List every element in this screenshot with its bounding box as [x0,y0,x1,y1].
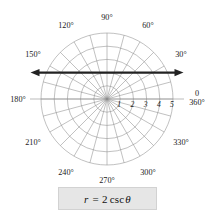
angle-label-300: 300° [140,168,156,177]
polar-plot-figure: 1 2 3 4 5 90° 120° 60° 150° 30° 180° 0 3… [0,0,213,217]
spoke-195 [43,99,107,116]
angle-label-270: 270° [99,176,115,185]
angle-label-330: 330° [173,138,189,147]
curve-arrowhead-left [31,69,40,76]
angle-label-150: 150° [25,50,41,59]
spoke-150 [50,66,107,99]
caption-equals: = [90,193,102,205]
radial-tick-1: 1 [117,100,121,109]
spoke-300 [107,99,140,156]
spoke-75 [107,35,124,99]
caption-variable: θ [124,193,131,205]
caption-function: csc [108,193,125,205]
spoke-240 [74,99,107,156]
spoke-15 [107,82,171,99]
radial-tick-4: 4 [157,100,161,109]
spoke-255 [90,99,107,163]
spoke-330 [107,99,164,132]
spoke-165 [43,82,107,99]
angle-label-0: 0 [195,89,199,98]
angle-label-120: 120° [58,21,74,30]
angle-label-240: 240° [58,168,74,177]
spoke-30 [107,66,164,99]
curve-arrowhead-right [175,69,184,76]
equation-caption: r = 2 csc θ [58,187,157,210]
spoke-60 [107,42,140,99]
radial-tick-2: 2 [131,100,135,109]
spoke-210 [50,99,107,132]
angle-label-210: 210° [25,138,41,147]
spoke-120 [74,42,107,99]
angle-label-360: 360° [189,98,205,107]
angle-label-90: 90° [101,13,112,22]
spoke-105 [90,35,107,99]
radial-tick-3: 3 [143,100,148,109]
spoke-135 [60,52,107,99]
angle-label-30: 30° [175,50,186,59]
spoke-45 [107,52,154,99]
angle-label-180: 180° [10,95,26,104]
angle-label-60: 60° [142,21,153,30]
spoke-285 [107,99,124,163]
spoke-225 [60,99,107,146]
polar-grid-canvas: 1 2 3 4 5 90° 120° 60° 150° 30° 180° 0 3… [0,0,213,217]
radial-tick-5: 5 [170,100,174,109]
